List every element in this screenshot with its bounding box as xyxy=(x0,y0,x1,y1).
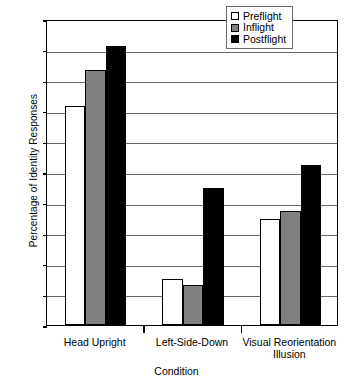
legend-item-inflight: Inflight xyxy=(231,22,286,33)
y-tick-mark xyxy=(43,296,47,297)
bar-preflight-group-3 xyxy=(260,219,281,325)
y-tick-mark xyxy=(43,235,47,236)
y-axis-title: Percentage of Identity Responses xyxy=(28,46,39,296)
legend-label: Postflight xyxy=(243,34,286,45)
legend-label: Inflight xyxy=(243,22,274,33)
y-tick-mark xyxy=(43,51,47,52)
bar-inflight-group-2 xyxy=(183,285,204,325)
legend-swatch-inflight-icon xyxy=(231,24,239,32)
bar-inflight-group-1 xyxy=(85,70,106,325)
x-tick-mark xyxy=(241,326,242,333)
y-tick-mark xyxy=(43,204,47,205)
x-group-label-3: Visual ReorientationIllusion xyxy=(219,336,353,360)
x-group-label-line: Illusion xyxy=(219,348,353,360)
bar-chart-figure: Percentage of Identity Responses 0102030… xyxy=(0,0,353,385)
x-group-label-line: Visual Reorientation xyxy=(219,336,353,348)
y-tick-mark xyxy=(43,265,47,266)
legend-swatch-preflight-icon xyxy=(231,12,239,20)
legend-label: Preflight xyxy=(243,11,282,22)
x-tick-mark xyxy=(143,326,144,333)
legend-item-postflight: Postflight xyxy=(231,34,286,45)
y-tick-mark xyxy=(43,326,47,327)
legend-swatch-postflight-icon xyxy=(231,35,239,43)
x-axis-title: Condition xyxy=(0,365,353,377)
bar-preflight-group-1 xyxy=(65,106,86,325)
chart-legend: PreflightInflightPostflight xyxy=(226,6,293,49)
y-tick-mark xyxy=(43,20,47,21)
y-tick-mark xyxy=(43,143,47,144)
y-tick-mark xyxy=(43,173,47,174)
y-tick-mark xyxy=(43,82,47,83)
bar-postflight-group-3 xyxy=(301,165,322,325)
bar-preflight-group-2 xyxy=(162,279,183,325)
bar-postflight-group-2 xyxy=(203,188,224,325)
bar-inflight-group-3 xyxy=(280,211,301,325)
plot-area: 0102030405060708090100 xyxy=(46,20,338,326)
legend-item-preflight: Preflight xyxy=(231,11,286,22)
bar-postflight-group-1 xyxy=(106,46,127,325)
y-tick-mark xyxy=(43,112,47,113)
gridline xyxy=(47,52,337,53)
